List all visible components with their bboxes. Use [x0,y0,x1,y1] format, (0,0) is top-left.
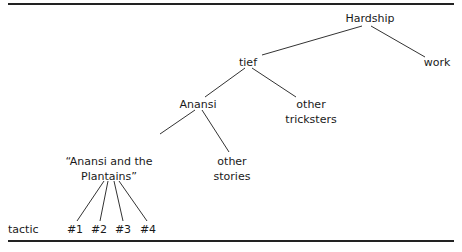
edge-tief-other-tricksters [252,68,296,97]
edge-hardship-tief [262,26,362,55]
node-other-stories: other stories [214,154,251,184]
tactic-2: #2 [91,222,107,237]
edge-story-tactic-1 [77,181,104,221]
edge-anansi-story [160,110,195,134]
edge-story-tactic-3 [114,181,123,221]
row-label-tactic: tactic [8,222,39,237]
node-other-tricksters: other tricksters [285,97,336,127]
edge-hardship-work [371,26,425,57]
node-work: work [424,55,451,70]
node-hardship: Hardship [345,11,394,26]
tactic-4: #4 [140,222,156,237]
edge-tief-anansi [205,68,245,97]
node-story-line2: Plantains” [65,169,152,184]
node-other-stories-line2: stories [214,169,251,184]
edge-story-tactic-2 [100,181,108,221]
edge-anansi-other-stories [202,110,229,152]
node-anansi-and-the-plantains: “Anansi and the Plantains” [65,154,152,184]
node-tief: tief [239,55,257,70]
node-other-tricksters-line1: other [285,97,336,112]
tree-edges [0,0,462,252]
edge-story-tactic-4 [119,181,147,221]
node-story-line1: “Anansi and the [65,154,152,169]
node-anansi: Anansi [180,97,217,112]
tactic-1: #1 [67,222,83,237]
node-other-tricksters-line2: tricksters [285,112,336,127]
node-other-stories-line1: other [214,154,251,169]
tactic-3: #3 [115,222,131,237]
